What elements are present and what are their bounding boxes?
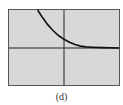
figure-caption: (d)	[0, 91, 123, 102]
chart-plot-area	[0, 0, 123, 105]
